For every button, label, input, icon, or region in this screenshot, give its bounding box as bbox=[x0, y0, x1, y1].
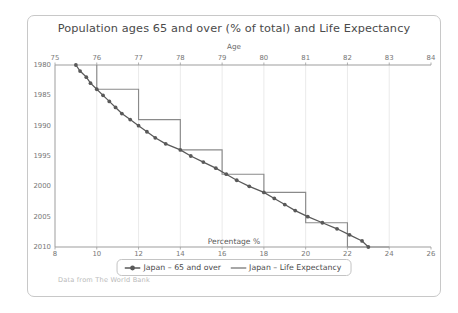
data-point-65-and-over bbox=[137, 124, 141, 128]
data-point-65-and-over bbox=[235, 178, 239, 182]
data-point-65-and-over bbox=[128, 118, 132, 122]
data-point-65-and-over bbox=[164, 142, 168, 146]
data-point-65-and-over bbox=[224, 172, 228, 176]
data-point-65-and-over bbox=[272, 197, 276, 201]
data-point-65-and-over bbox=[101, 93, 105, 97]
data-point-65-and-over bbox=[335, 227, 339, 231]
data-point-65-and-over bbox=[114, 106, 118, 110]
data-point-65-and-over bbox=[89, 81, 93, 85]
data-point-65-and-over bbox=[189, 154, 193, 158]
data-point-65-and-over bbox=[145, 130, 149, 134]
data-point-65-and-over bbox=[153, 136, 157, 140]
data-point-65-and-over bbox=[320, 221, 324, 225]
legend-item-life-expectancy[interactable]: Japan – Life Expectancy bbox=[230, 263, 341, 272]
data-point-65-and-over bbox=[306, 215, 310, 219]
data-point-65-and-over bbox=[74, 63, 78, 67]
legend-label-65-and-over: Japan – 65 and over bbox=[144, 263, 222, 272]
data-point-65-and-over bbox=[95, 87, 99, 91]
data-point-65-and-over bbox=[293, 209, 297, 213]
data-point-65-and-over bbox=[178, 148, 182, 152]
data-point-65-and-over bbox=[84, 75, 88, 79]
legend-line-marker-icon bbox=[125, 264, 141, 272]
plot-area bbox=[28, 16, 442, 298]
data-point-65-and-over bbox=[78, 69, 82, 73]
data-point-65-and-over bbox=[247, 184, 251, 188]
data-point-65-and-over bbox=[107, 100, 111, 104]
data-point-65-and-over bbox=[283, 203, 287, 207]
legend-line-icon bbox=[230, 264, 246, 272]
chart-panel: Population ages 65 and over (% of total)… bbox=[27, 15, 441, 297]
series-line-life-expectancy bbox=[97, 65, 389, 247]
legend-label-life-expectancy: Japan – Life Expectancy bbox=[249, 263, 341, 272]
data-source-note: Data from The World Bank bbox=[58, 276, 150, 284]
data-point-65-and-over bbox=[214, 166, 218, 170]
data-point-65-and-over bbox=[262, 191, 266, 195]
data-point-65-and-over bbox=[120, 112, 124, 116]
chart-legend: Japan – 65 and over Japan – Life Expecta… bbox=[117, 259, 352, 276]
bottom-axis-title: Percentage % bbox=[28, 237, 440, 246]
data-point-65-and-over bbox=[201, 160, 205, 164]
legend-item-65-and-over[interactable]: Japan – 65 and over bbox=[125, 263, 222, 272]
